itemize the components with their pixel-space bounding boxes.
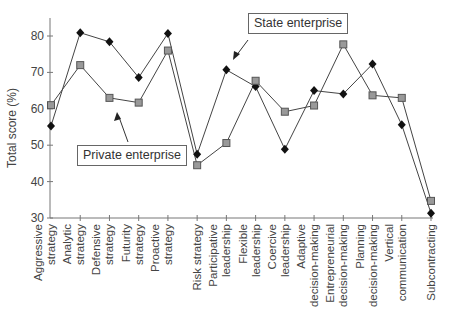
- x-category-label: Analytic: [61, 224, 73, 265]
- private-enterprise-point: [369, 92, 376, 99]
- private-enterprise-point: [398, 94, 405, 101]
- y-tick-label: 40: [31, 175, 45, 189]
- state-enterprise-point: [76, 28, 84, 37]
- state-enterprise-label: State enterprise: [248, 13, 348, 34]
- line-chart: 304050607080 AggressivestrategyAnalytics…: [0, 0, 457, 318]
- x-category-label: Participative: [207, 224, 219, 287]
- y-tick-label: 80: [31, 29, 45, 43]
- private-enterprise-point: [311, 102, 318, 109]
- state-enterprise-point: [47, 121, 55, 130]
- state-enterprise-point: [398, 120, 406, 129]
- x-category-label: Flexible: [237, 224, 249, 264]
- private-enterprise-point: [48, 102, 55, 109]
- x-category-label: Proactive: [149, 224, 161, 272]
- state-enterprise-point: [222, 65, 230, 74]
- x-category-label: Vertical: [383, 224, 395, 262]
- x-category-label: leadership: [250, 224, 262, 277]
- x-category-label: communication: [396, 224, 408, 301]
- x-category-label: decision-making: [337, 224, 349, 307]
- private-enterprise-point: [194, 162, 201, 169]
- state-enterprise-point: [164, 29, 172, 38]
- private-enterprise-point: [164, 47, 171, 54]
- private-enterprise-point: [106, 94, 113, 101]
- x-category-label: leadership: [279, 224, 291, 277]
- private-enterprise-point: [135, 99, 142, 106]
- state-enterprise-point: [310, 86, 318, 95]
- private-enterprise-point: [340, 41, 347, 48]
- private-enterprise-point: [223, 140, 230, 147]
- y-tick-label: 60: [31, 102, 45, 116]
- x-category-label: Planning: [354, 224, 366, 269]
- data-series: [47, 28, 435, 218]
- x-category-label: Risk strategy: [191, 224, 203, 291]
- x-category-label: Entrepreneurial: [324, 224, 336, 303]
- annotation-arrows: [114, 40, 248, 142]
- y-axis-label: Total score (%): [5, 88, 19, 168]
- private-enterprise-point: [281, 108, 288, 115]
- x-category-label: Coercive: [266, 224, 278, 269]
- x-category-label: decision-making: [308, 224, 320, 307]
- state-enterprise-point: [193, 150, 201, 159]
- state-enterprise-point: [427, 209, 435, 218]
- x-category-label: Subcontracting: [425, 224, 437, 301]
- x-category-label: strategy: [162, 224, 174, 265]
- y-tick-label: 30: [31, 211, 45, 225]
- x-category-label: decision-making: [367, 224, 379, 307]
- y-tick-label: 50: [31, 138, 45, 152]
- x-category-label: leadership: [220, 224, 232, 277]
- private-enterprise-label: Private enterprise: [77, 145, 187, 166]
- private-enterprise-point: [428, 197, 435, 204]
- state-enterprise-point: [281, 145, 289, 154]
- x-category-label: Futurity: [120, 224, 132, 263]
- x-category-label: strategy: [45, 224, 57, 265]
- x-category-label: Adaptive: [295, 224, 307, 269]
- private-enterprise-point: [252, 77, 259, 84]
- x-axis-ticks: AggressivestrategyAnalyticstrategyDefens…: [32, 215, 437, 307]
- x-category-label: strategy: [74, 224, 86, 265]
- x-category-label: Aggressive: [32, 224, 44, 281]
- private-enterprise-point: [77, 62, 84, 69]
- x-category-label: Defensive: [90, 224, 102, 275]
- y-tick-label: 70: [31, 65, 45, 79]
- x-category-label: strategy: [103, 224, 115, 265]
- x-category-label: strategy: [133, 224, 145, 265]
